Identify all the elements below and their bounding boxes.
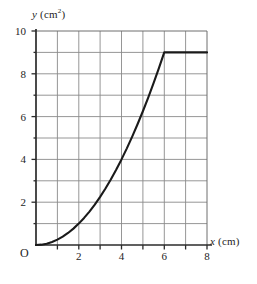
- x-axis-title: x (cm): [210, 235, 240, 247]
- y-axis-unit-close: ): [61, 8, 65, 20]
- origin-label: O: [20, 246, 29, 261]
- y-axis-title: y (cm2): [32, 8, 65, 20]
- x-tick-label-4: 4: [114, 250, 130, 262]
- x-axis-unit: (cm): [218, 235, 240, 247]
- x-tick-label-8: 8: [199, 250, 215, 262]
- y-axis-unit: (cm: [40, 8, 58, 20]
- x-tick-label-6: 6: [156, 250, 172, 262]
- y-tick-label-2: 2: [8, 196, 26, 208]
- y-tick-label-4: 4: [8, 153, 26, 165]
- y-tick-label-6: 6: [8, 111, 26, 123]
- y-tick-label-10: 10: [8, 25, 26, 37]
- chart-figure: y (cm2) x (cm) 10 8 6 4 2 O 2 4 6 8: [0, 0, 257, 284]
- x-tick-label-2: 2: [71, 250, 87, 262]
- y-tick-label-8: 8: [8, 68, 26, 80]
